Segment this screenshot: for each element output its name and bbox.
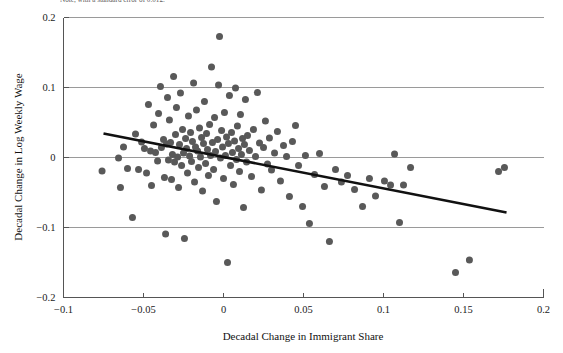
y-tick-label: 0.2: [42, 12, 55, 23]
y-axis-title: Decadal Change in Log Weekly Wage: [12, 73, 24, 240]
data-point: [208, 63, 215, 70]
data-point: [206, 121, 213, 128]
data-point: [237, 111, 244, 118]
data-point: [195, 164, 202, 171]
data-point: [236, 168, 243, 175]
data-point: [148, 182, 155, 189]
y-tick-labels: 0.20.10−0.1−0.2: [36, 12, 55, 303]
data-point: [295, 162, 302, 169]
data-point: [452, 269, 459, 276]
data-point: [213, 198, 220, 205]
data-point: [201, 98, 208, 105]
data-point: [193, 106, 200, 113]
data-point: [178, 162, 185, 169]
data-point: [196, 125, 203, 132]
x-tick-label: −0.1: [54, 304, 73, 315]
data-point: [199, 188, 206, 195]
data-point: [262, 118, 269, 125]
data-point: [495, 168, 502, 175]
data-point: [248, 173, 255, 180]
data-point: [258, 186, 265, 193]
data-point: [145, 101, 152, 108]
data-point: [120, 144, 127, 151]
data-point: [221, 109, 228, 116]
data-point: [400, 182, 407, 189]
data-point: [197, 154, 204, 161]
data-point: [214, 136, 221, 143]
x-tick-label: 0: [221, 304, 226, 315]
data-point: [218, 127, 225, 134]
data-point: [224, 259, 231, 266]
data-point: [235, 145, 242, 152]
data-point: [174, 154, 181, 161]
data-point: [240, 204, 247, 211]
data-point: [242, 96, 249, 103]
data-point: [299, 203, 306, 210]
figure-container: Note, with a standard error of 0.012. −0…: [0, 0, 563, 353]
data-point: [205, 172, 212, 179]
data-point: [407, 164, 414, 171]
data-point: [332, 166, 339, 173]
data-point: [289, 138, 296, 145]
data-point: [204, 146, 211, 153]
data-point: [215, 81, 222, 88]
data-point: [286, 193, 293, 200]
data-point: [230, 181, 237, 188]
y-tick-label: 0.1: [42, 82, 55, 93]
data-point: [252, 153, 259, 160]
data-point: [219, 144, 226, 151]
data-point: [141, 145, 148, 152]
data-point: [187, 129, 194, 136]
data-point: [115, 154, 122, 161]
data-point: [283, 153, 290, 160]
data-point: [225, 140, 232, 147]
data-point: [203, 130, 210, 137]
data-point: [132, 130, 139, 137]
data-point: [241, 141, 248, 148]
data-point: [154, 158, 161, 165]
data-point: [250, 126, 257, 133]
x-tick-label: 0.05: [294, 304, 312, 315]
y-tick-label: −0.2: [36, 292, 55, 303]
data-point: [234, 123, 241, 130]
regression-line: [104, 133, 507, 212]
data-point: [155, 110, 162, 117]
data-point: [190, 80, 197, 87]
data-point: [292, 122, 299, 129]
data-point: [244, 132, 251, 139]
data-point: [381, 178, 388, 185]
data-point: [168, 176, 175, 183]
data-point: [501, 164, 508, 171]
data-point: [170, 73, 177, 80]
data-point: [211, 114, 218, 121]
data-point: [129, 214, 136, 221]
x-tick-labels: −0.1−0.0500.050.10.150.2: [54, 304, 550, 315]
data-points: [99, 33, 508, 276]
data-point: [179, 126, 186, 133]
y-tick-label: 0: [50, 152, 55, 163]
data-point: [359, 203, 366, 210]
data-point: [229, 149, 236, 156]
data-point: [254, 89, 261, 96]
data-point: [172, 131, 179, 138]
data-point: [391, 151, 398, 158]
data-point: [227, 162, 234, 169]
data-point: [321, 183, 328, 190]
data-point: [210, 166, 217, 173]
x-tick-label: 0.1: [377, 304, 390, 315]
data-point: [177, 90, 184, 97]
data-point: [228, 129, 235, 136]
data-point: [277, 178, 284, 185]
data-point: [302, 152, 309, 159]
data-point: [124, 165, 131, 172]
data-point: [182, 135, 189, 142]
data-point: [238, 151, 245, 158]
data-point: [143, 169, 150, 176]
data-point: [226, 92, 233, 99]
data-point: [135, 166, 142, 173]
data-point: [220, 175, 227, 182]
data-point: [200, 140, 207, 147]
data-point: [466, 256, 473, 263]
data-point: [372, 193, 379, 200]
y-tick-label: −0.1: [36, 222, 55, 233]
